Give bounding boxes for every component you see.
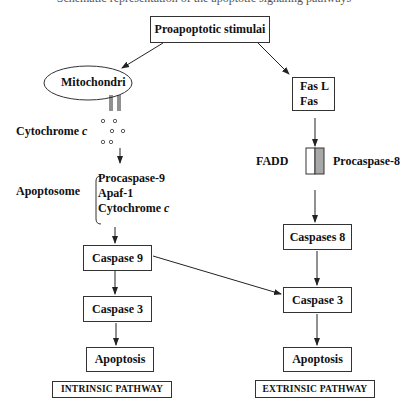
fas-label: Fas xyxy=(300,94,318,109)
caspase-3-intrinsic-box: Caspase 3 xyxy=(83,296,152,322)
caspase-3-extrinsic-box: Caspase 3 xyxy=(283,287,352,313)
fadd-bar xyxy=(306,148,315,174)
cytochrome-dots xyxy=(101,119,124,143)
cytochrome-c-label: Cytochrome c xyxy=(16,124,87,139)
apoptosis-extrinsic-box: Apoptosis xyxy=(283,347,352,372)
proapoptotic-stimuli-box: Proapoptotic stimulai xyxy=(150,16,270,43)
apoptosome-components: Procaspase-9 Apaf-1 Cytochrome c xyxy=(98,171,169,216)
caspase-8-box: Caspases 8 xyxy=(283,224,352,250)
fas-ligand-label: Fas L xyxy=(300,79,329,94)
procaspase-8-label: Procaspase-8 xyxy=(333,154,400,169)
proapoptotic-stimuli-label: Proapoptotic stimulai xyxy=(155,22,266,37)
apoptosis-pathway-diagram: Schematic representation of the apoptoti… xyxy=(0,0,408,413)
mitochondria-label: Mitochondri xyxy=(61,75,126,90)
arrow-root-to-mitochondria xyxy=(122,43,163,68)
apoptosis-intrinsic-label: Apoptosis xyxy=(95,352,146,367)
apoptosome-component: Procaspase-9 xyxy=(98,171,165,186)
apoptosome-component: Cytochrome c xyxy=(98,201,169,216)
intrinsic-pathway-label: INTRINSIC PATHWAY xyxy=(61,382,163,397)
apoptosis-extrinsic-label: Apoptosis xyxy=(292,352,343,367)
extrinsic-pathway-label: EXTRINSIC PATHWAY xyxy=(263,382,368,397)
caspase-3-intrinsic-label: Caspase 3 xyxy=(92,302,143,317)
caspase-9-label: Caspase 9 xyxy=(92,251,143,266)
apoptosome-label: Apoptosome xyxy=(16,184,80,199)
procaspase8-bar xyxy=(315,148,324,174)
fadd-label: FADD xyxy=(256,154,288,169)
extrinsic-pathway-label-box: EXTRINSIC PATHWAY xyxy=(255,380,375,398)
apoptosis-intrinsic-box: Apoptosis xyxy=(86,347,154,372)
caspase-9-box: Caspase 9 xyxy=(83,245,152,271)
caspase-3-extrinsic-label: Caspase 3 xyxy=(292,293,343,308)
caspase-8-label: Caspases 8 xyxy=(290,230,346,245)
arrow-root-to-fas xyxy=(258,43,289,74)
fas-receptor-box: Fas L Fas xyxy=(292,77,335,111)
arrow-caspase9-to-caspase3-extrinsic xyxy=(153,256,281,294)
apoptosome-component: Apaf-1 xyxy=(98,186,133,201)
intrinsic-pathway-label-box: INTRINSIC PATHWAY xyxy=(52,381,172,398)
